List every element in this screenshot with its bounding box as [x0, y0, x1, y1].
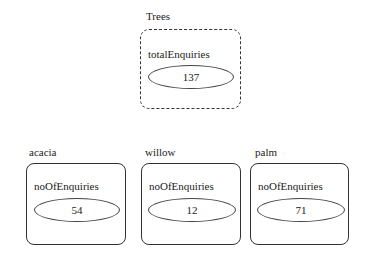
child-object-box-willow: noOfEnquiries 12 — [141, 163, 241, 245]
child-attribute-label: noOfEnquiries — [149, 180, 214, 192]
root-attribute-label: totalEnquiries — [148, 48, 210, 60]
root-attribute-value: 137 — [148, 65, 234, 89]
child-attribute-value: 12 — [148, 198, 236, 222]
root-object-title: Trees — [146, 10, 170, 22]
child-object-box-palm: noOfEnquiries 71 — [250, 163, 349, 245]
child-attribute-label: noOfEnquiries — [258, 180, 323, 192]
root-object-box: totalEnquiries 137 — [140, 29, 241, 109]
child-attribute-value: 71 — [257, 198, 345, 222]
child-object-title-willow: willow — [145, 146, 176, 158]
child-attribute-label: noOfEnquiries — [34, 180, 99, 192]
child-object-title-palm: palm — [255, 146, 277, 158]
child-object-title-acacia: acacia — [29, 146, 56, 158]
child-object-box-acacia: noOfEnquiries 54 — [26, 163, 126, 245]
child-attribute-value: 54 — [34, 198, 120, 222]
